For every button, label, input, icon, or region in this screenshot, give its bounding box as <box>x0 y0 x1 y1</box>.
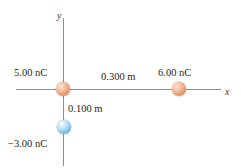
charge-sphere-q2 <box>172 82 186 96</box>
charge-label-q2: 6.00 nC <box>158 68 191 79</box>
distance-label-horizontal: 0.300 m <box>101 72 135 83</box>
x-axis-label: x <box>225 87 229 97</box>
x-axis-line <box>16 89 221 90</box>
charge-sphere-q3 <box>57 120 71 134</box>
charge-label-q3: −3.00 nC <box>8 139 47 150</box>
charge-sphere-q1 <box>56 82 70 96</box>
distance-label-vertical: 0.100 m <box>68 104 102 115</box>
charge-label-q1: 5.00 nC <box>14 68 47 79</box>
y-axis-label: y <box>57 11 61 21</box>
charge-configuration-figure: y x 5.00 nC 6.00 nC −3.00 nC 0.300 m 0.1… <box>0 0 241 168</box>
